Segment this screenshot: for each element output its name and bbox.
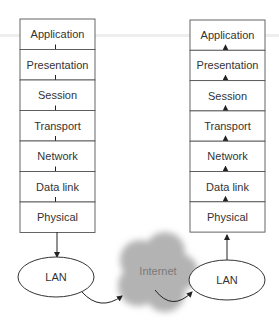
layer-label: Presentation (27, 59, 89, 71)
internet-label: Internet (139, 265, 176, 277)
lan-to-internet-arrow (82, 292, 122, 303)
osi-diagram: ApplicationPresentationSessionTransportN… (0, 0, 279, 320)
layer-label: Session (208, 90, 247, 102)
layer-label: Network (37, 150, 78, 162)
layer-label: Physical (207, 211, 248, 223)
layer-label: Transport (204, 120, 251, 132)
layer-label: Application (201, 29, 255, 41)
left-protocol-stack: ApplicationPresentationSessionTransportN… (20, 19, 95, 233)
left-lan-label: LAN (45, 271, 66, 283)
layer-label: Transport (34, 120, 81, 132)
right-lan-label: LAN (216, 274, 237, 286)
right-protocol-stack: ApplicationPresentationSessionTransportN… (190, 20, 265, 232)
layer-label: Presentation (197, 59, 259, 71)
layer-label: Network (207, 150, 248, 162)
layer-label: Session (38, 89, 77, 101)
layer-label: Physical (37, 211, 78, 223)
layer-label: Data link (206, 181, 249, 193)
layer-label: Data link (36, 181, 79, 193)
layer-label: Application (31, 28, 85, 40)
